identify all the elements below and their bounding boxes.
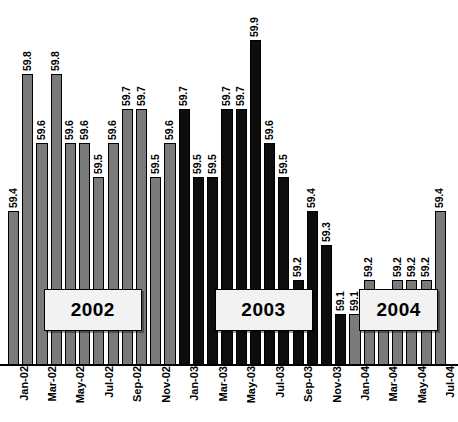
bar-column: 59.4 xyxy=(8,0,19,365)
bar-column: 59.6 xyxy=(164,0,175,365)
year-annotation-box-2004: 2004 xyxy=(359,289,438,331)
bar-value-label: 59.5 xyxy=(276,154,288,174)
bar-value-label: 59.2 xyxy=(291,257,303,277)
x-tick-label: Mar-04 xyxy=(387,366,399,401)
x-tick-label: Jul-02 xyxy=(103,366,115,398)
x-tick-label: Mar-02 xyxy=(46,366,58,401)
x-tick-label: Sep-03 xyxy=(302,366,314,402)
bar xyxy=(36,143,47,365)
bar-value-label: 59.5 xyxy=(91,154,103,174)
bar-value-label: 59.6 xyxy=(262,120,274,140)
year-annotation-label: 2003 xyxy=(241,299,285,321)
year-annotation-label: 2004 xyxy=(377,299,421,321)
year-annotation-label: 2002 xyxy=(71,299,115,321)
bar-value-label: 59.2 xyxy=(404,257,416,277)
bar-column: 59.5 xyxy=(193,0,204,365)
x-tick-label: May-04 xyxy=(416,366,428,403)
bar-value-label: 59.2 xyxy=(390,257,402,277)
x-axis-tick-labels: Jan-02Mar-02May-02Jul-02Sep-02Nov-02Jan-… xyxy=(0,366,458,422)
bar-value-label: 59.5 xyxy=(191,154,203,174)
x-tick-label: Jul-03 xyxy=(274,366,286,398)
bar-value-label: 59.7 xyxy=(234,86,246,106)
bar-value-label: 59.4 xyxy=(6,188,18,208)
bar xyxy=(108,143,119,365)
bar xyxy=(164,143,175,365)
bar-value-label: 59.7 xyxy=(219,86,231,106)
x-tick-label: Jan-03 xyxy=(188,366,200,401)
bar-value-label: 59.1 xyxy=(333,291,345,311)
bar-value-label: 59.7 xyxy=(134,86,146,106)
bar xyxy=(207,177,218,365)
bar-value-label: 59.3 xyxy=(319,223,331,243)
bar xyxy=(179,109,190,366)
bar-column: 59.3 xyxy=(321,0,332,365)
x-tick-label: Nov-02 xyxy=(160,366,172,403)
bar-value-label: 59.6 xyxy=(106,120,118,140)
bar-value-label: 59.2 xyxy=(362,257,374,277)
bar xyxy=(150,177,161,365)
x-tick-label: Sep-02 xyxy=(131,366,143,402)
bar xyxy=(264,143,275,365)
bar-value-label: 59.9 xyxy=(248,17,260,37)
bar-column: 59.5 xyxy=(150,0,161,365)
bar-value-label: 59.7 xyxy=(120,86,132,106)
x-tick-label: Mar-03 xyxy=(217,366,229,401)
bar xyxy=(79,143,90,365)
x-tick-label: Jan-04 xyxy=(359,366,371,401)
bar-value-label: 59.6 xyxy=(63,120,75,140)
bar-value-label: 59.2 xyxy=(419,257,431,277)
bar-value-label: 59.4 xyxy=(433,188,445,208)
bar-chart: 59.459.859.659.859.659.659.559.659.759.7… xyxy=(0,0,458,422)
bar xyxy=(335,314,346,365)
x-tick-label: Jul-04 xyxy=(444,366,456,398)
bar xyxy=(278,177,289,365)
x-tick-label: Jan-02 xyxy=(18,366,30,401)
bar-value-label: 59.6 xyxy=(35,120,47,140)
x-tick-label: May-02 xyxy=(74,366,86,403)
bar xyxy=(93,177,104,365)
x-tick-label: May-03 xyxy=(245,366,257,403)
bar-value-label: 59.7 xyxy=(177,86,189,106)
bar-value-label: 59.6 xyxy=(163,120,175,140)
bar xyxy=(321,245,332,365)
bar xyxy=(65,143,76,365)
bar-value-label: 59.8 xyxy=(49,52,61,72)
bar-value-label: 59.8 xyxy=(20,52,32,72)
bar-column: 59.7 xyxy=(179,0,190,365)
bar xyxy=(193,177,204,365)
bar xyxy=(22,74,33,365)
bar-value-label: 59.4 xyxy=(305,188,317,208)
bar-value-label: 59.5 xyxy=(148,154,160,174)
year-annotation-box-2003: 2003 xyxy=(215,289,313,331)
bar-column: 59.1 xyxy=(335,0,346,365)
bar-value-label: 59.6 xyxy=(77,120,89,140)
bar-column: 59.8 xyxy=(22,0,33,365)
x-tick-label: Nov-03 xyxy=(331,366,343,403)
year-annotation-box-2002: 2002 xyxy=(44,289,142,331)
bar-value-label: 59.1 xyxy=(347,291,359,311)
bar xyxy=(8,211,19,365)
bar-value-label: 59.5 xyxy=(205,154,217,174)
